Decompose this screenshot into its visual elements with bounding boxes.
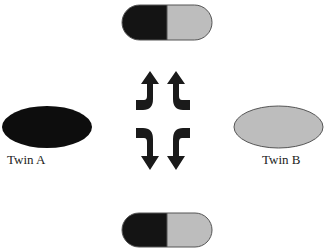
capsule-top — [122, 5, 212, 40]
capsule-bottom — [122, 213, 212, 247]
twin-b-ellipse — [234, 106, 323, 148]
twin-a-ellipse — [2, 106, 92, 148]
right-down-arrow-icon — [167, 128, 190, 170]
twin-b-label: Twin B — [262, 152, 300, 168]
diagram-canvas — [0, 0, 326, 252]
twin-a-label: Twin A — [7, 152, 45, 168]
left-up-arrow-icon — [136, 71, 159, 110]
right-up-arrow-icon — [167, 71, 190, 110]
left-down-arrow-icon — [136, 128, 159, 170]
